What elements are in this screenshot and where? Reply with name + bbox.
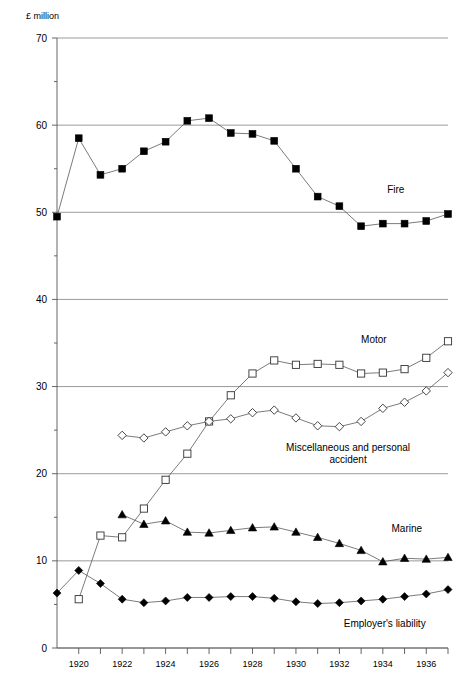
data-point-miscellaneous-and-personal-accident-11 xyxy=(357,417,365,425)
data-point-fire-5 xyxy=(162,138,169,145)
data-point-miscellaneous-and-personal-accident-12 xyxy=(379,404,387,412)
data-point-motor-8 xyxy=(249,370,256,377)
data-point-motor-0 xyxy=(75,596,82,603)
x-tick-label-1930: 1930 xyxy=(286,659,306,669)
y-tick-label-30: 30 xyxy=(36,381,48,392)
data-point-miscellaneous-and-personal-accident-1 xyxy=(140,434,148,442)
data-point-motor-13 xyxy=(358,370,365,377)
data-point-marine-15 xyxy=(444,553,452,560)
data-point-employer-s-liability-14 xyxy=(357,597,365,605)
x-tick-label-1932: 1932 xyxy=(329,659,349,669)
data-point-employer-s-liability-11 xyxy=(292,598,300,606)
data-point-motor-10 xyxy=(292,361,299,368)
data-point-motor-2 xyxy=(119,534,126,541)
data-point-fire-15 xyxy=(379,220,386,227)
gridlines-group xyxy=(57,38,448,648)
data-point-fire-2 xyxy=(97,171,104,178)
series-annotation-accident: accident xyxy=(329,454,366,465)
data-point-fire-1 xyxy=(75,135,82,142)
data-point-employer-s-liability-12 xyxy=(314,600,322,608)
y-tick-label-20: 20 xyxy=(36,468,48,479)
series-annotation-fire: Fire xyxy=(387,184,405,195)
y-tick-label-0: 0 xyxy=(41,643,47,654)
series-miscellaneous-and-personal-accident xyxy=(118,368,452,442)
data-point-miscellaneous-and-personal-accident-6 xyxy=(248,409,256,417)
chart-container: 0102030405060701920192219241926192819301… xyxy=(0,0,461,687)
data-point-fire-0 xyxy=(54,213,61,220)
data-point-motor-1 xyxy=(97,532,104,539)
data-point-employer-s-liability-4 xyxy=(140,599,148,607)
data-point-employer-s-liability-16 xyxy=(401,593,409,601)
data-point-miscellaneous-and-personal-accident-13 xyxy=(400,398,408,406)
data-point-miscellaneous-and-personal-accident-5 xyxy=(227,415,235,423)
line-chart: 0102030405060701920192219241926192819301… xyxy=(0,0,461,687)
x-tick-label-1924: 1924 xyxy=(156,659,176,669)
data-point-employer-s-liability-8 xyxy=(227,593,235,601)
y-axis-unit-label: £ million xyxy=(26,11,59,21)
x-tick-label-1934: 1934 xyxy=(373,659,393,669)
data-point-motor-9 xyxy=(271,357,278,364)
data-point-fire-9 xyxy=(249,130,256,137)
data-point-motor-3 xyxy=(140,505,147,512)
data-point-employer-s-liability-7 xyxy=(205,593,213,601)
x-tick-label-1922: 1922 xyxy=(112,659,132,669)
data-point-employer-s-liability-2 xyxy=(96,580,104,588)
data-point-miscellaneous-and-personal-accident-3 xyxy=(183,422,191,430)
data-point-employer-s-liability-13 xyxy=(335,599,343,607)
data-point-fire-18 xyxy=(445,211,452,218)
data-point-employer-s-liability-18 xyxy=(444,586,452,594)
data-point-miscellaneous-and-personal-accident-2 xyxy=(161,428,169,436)
data-point-motor-4 xyxy=(162,476,169,483)
data-point-fire-3 xyxy=(119,165,126,172)
data-point-fire-14 xyxy=(358,223,365,230)
data-point-motor-5 xyxy=(184,450,191,457)
data-point-fire-7 xyxy=(206,115,213,122)
x-tick-label-1936: 1936 xyxy=(416,659,436,669)
data-point-marine-11 xyxy=(357,546,365,553)
data-point-miscellaneous-and-personal-accident-8 xyxy=(292,414,300,422)
data-point-motor-15 xyxy=(401,366,408,373)
data-point-fire-10 xyxy=(271,137,278,144)
data-point-fire-12 xyxy=(314,193,321,200)
data-point-fire-4 xyxy=(140,148,147,155)
data-point-miscellaneous-and-personal-accident-7 xyxy=(270,406,278,414)
series-annotation-employer-s-liability: Employer's liability xyxy=(344,618,426,629)
data-point-employer-s-liability-9 xyxy=(249,593,257,601)
data-point-motor-12 xyxy=(336,361,343,368)
y-tick-label-60: 60 xyxy=(36,120,48,131)
data-point-fire-17 xyxy=(423,218,430,225)
series-motor xyxy=(75,338,451,603)
data-point-miscellaneous-and-personal-accident-9 xyxy=(313,422,321,430)
data-point-employer-s-liability-17 xyxy=(422,590,430,598)
data-point-employer-s-liability-3 xyxy=(118,595,126,603)
series-employer-s-liability xyxy=(53,566,452,607)
data-point-marine-13 xyxy=(400,554,408,561)
series-annotation-motor: Motor xyxy=(361,334,387,345)
data-point-fire-16 xyxy=(401,220,408,227)
data-point-fire-13 xyxy=(336,203,343,210)
data-point-employer-s-liability-15 xyxy=(379,595,387,603)
series-annotation-miscellaneous-and-personal: Miscellaneous and personal xyxy=(286,442,410,453)
data-point-employer-s-liability-6 xyxy=(183,593,191,601)
x-tick-label-1928: 1928 xyxy=(242,659,262,669)
y-tick-label-50: 50 xyxy=(36,207,48,218)
y-tick-label-40: 40 xyxy=(36,294,48,305)
data-point-marine-3 xyxy=(183,528,191,535)
y-tick-label-70: 70 xyxy=(36,33,48,44)
data-point-miscellaneous-and-personal-accident-0 xyxy=(118,431,126,439)
data-point-fire-6 xyxy=(184,117,191,124)
data-point-employer-s-liability-10 xyxy=(270,594,278,602)
series-line-marine xyxy=(122,515,448,562)
data-point-marine-0 xyxy=(118,510,126,517)
x-tick-label-1920: 1920 xyxy=(69,659,89,669)
series-marine xyxy=(118,510,452,564)
data-point-motor-16 xyxy=(423,354,430,361)
data-point-fire-11 xyxy=(293,165,300,172)
series-line-miscellaneous-and-personal-accident xyxy=(122,373,448,438)
data-point-motor-7 xyxy=(227,392,234,399)
data-point-motor-14 xyxy=(379,369,386,376)
data-point-marine-7 xyxy=(270,523,278,530)
data-point-fire-8 xyxy=(227,130,234,137)
data-point-miscellaneous-and-personal-accident-10 xyxy=(335,422,343,430)
y-tick-label-10: 10 xyxy=(36,555,48,566)
